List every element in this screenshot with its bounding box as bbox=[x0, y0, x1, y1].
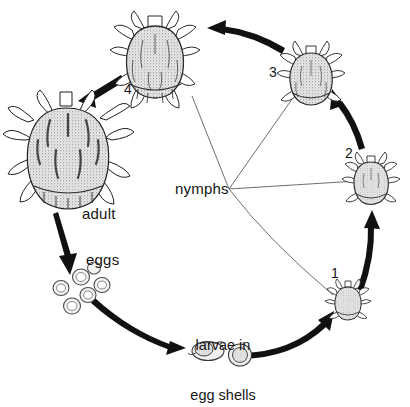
label-adult: adult bbox=[82, 206, 116, 222]
arrow-nymph3-to-nymph4 bbox=[207, 20, 285, 54]
egg bbox=[64, 298, 81, 314]
egg bbox=[53, 281, 69, 296]
leader-line-to-nymph-1 bbox=[229, 189, 333, 295]
label-nymph-1: 1 bbox=[331, 266, 339, 281]
label-larvae-line-1: larvae in bbox=[180, 337, 266, 354]
leader-line-to-nymph-3 bbox=[229, 92, 297, 189]
label-nymph-3: 3 bbox=[269, 65, 277, 80]
label-eggs: eggs bbox=[86, 252, 119, 268]
label-nymph-4: 4 bbox=[124, 82, 132, 97]
label-nymphs: nymphs bbox=[175, 181, 229, 197]
egg bbox=[80, 288, 96, 303]
label-larvae-in-egg-shells: larvae in egg shells bbox=[180, 304, 266, 407]
leader-line-to-nymph-4 bbox=[192, 96, 229, 189]
nymph-3-illustration bbox=[277, 41, 345, 105]
adult-tick-illustration bbox=[3, 90, 134, 209]
arrow-eggs-to-larvae bbox=[91, 298, 186, 355]
label-larvae-line-2: egg shells bbox=[180, 387, 266, 404]
egg bbox=[94, 278, 110, 293]
egg bbox=[73, 269, 90, 285]
leader-line-to-nymph-2 bbox=[229, 181, 357, 189]
arrow-adult-to-eggs bbox=[53, 212, 77, 275]
arrow-nymph1-to-nymph2 bbox=[357, 210, 380, 291]
label-nymph-2: 2 bbox=[345, 146, 353, 161]
